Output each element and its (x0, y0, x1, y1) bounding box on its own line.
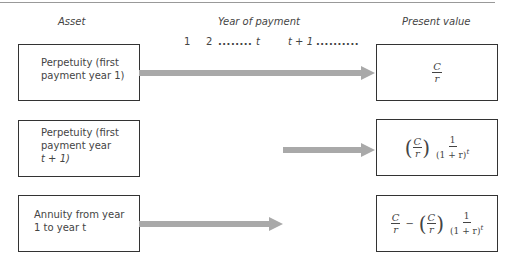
asset-box-perpetuity-year-t-plus-1: Perpetuity (first payment year t + 1) (18, 120, 140, 177)
asset-box-perpetuity-year-1: Perpetuity (first payment year 1) (18, 44, 140, 101)
timeline-tick-t-plus-1: t + 1 (288, 36, 313, 47)
asset-label: Perpetuity (first payment year t + 1) (41, 126, 119, 165)
formula-deferred-perpetuity: ( Cr ) 1(1 + r)t (377, 120, 497, 175)
timeline-tick-t: t (256, 36, 260, 47)
timeline-tick-2: 2 (206, 36, 212, 47)
asset-label: Annuity from year 1 to year t (34, 208, 124, 234)
asset-label: Perpetuity (first payment year 1) (41, 56, 124, 82)
header-present-value: Present value (402, 16, 470, 27)
present-value-box-perpetuity: Cr (376, 44, 498, 101)
header-year-of-payment: Year of payment (218, 16, 300, 27)
arrow-icon (283, 143, 377, 157)
top-rule (0, 2, 495, 3)
timeline-tick-1: 1 (184, 36, 190, 47)
header-asset: Asset (58, 16, 85, 27)
arrow-icon (139, 217, 285, 231)
timeline-dots-1: ........ (218, 36, 252, 47)
arrow-icon (139, 66, 377, 80)
present-value-box-deferred-perpetuity: ( Cr ) 1(1 + r)t (376, 119, 498, 176)
asset-box-annuity: Annuity from year 1 to year t (18, 195, 140, 252)
present-value-box-annuity: Cr − ( Cr ) 1(1 + r)t (376, 195, 498, 252)
timeline-dots-2: .......... (316, 36, 359, 47)
formula-annuity: Cr − ( Cr ) 1(1 + r)t (377, 196, 497, 251)
formula-c-over-r: Cr (377, 45, 497, 100)
